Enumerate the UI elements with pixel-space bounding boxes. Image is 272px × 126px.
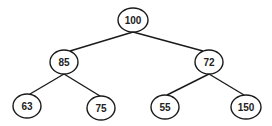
edge-100-85: [70, 32, 133, 51]
tree-node-150: 150: [231, 95, 261, 119]
node-label: 75: [95, 103, 107, 114]
tree-node-85: 85: [50, 50, 78, 74]
tree-node-55: 55: [151, 95, 179, 119]
node-label: 55: [159, 102, 171, 113]
node-label: 63: [21, 101, 33, 112]
tree-node-75: 75: [87, 96, 115, 120]
edge-72-55: [167, 74, 209, 95]
edge-72-150: [209, 74, 244, 95]
node-label: 150: [238, 102, 255, 113]
binary-tree-diagram: 100 85 72 63 75 55 150: [0, 0, 272, 126]
node-label: 85: [58, 57, 70, 68]
tree-node-63: 63: [13, 94, 41, 118]
node-label: 100: [125, 15, 142, 26]
edge-100-72: [133, 32, 203, 51]
tree-node-72: 72: [195, 50, 223, 74]
edge-85-75: [64, 74, 100, 96]
node-label: 72: [203, 57, 215, 68]
edge-85-63: [30, 74, 64, 94]
tree-node-100: 100: [118, 8, 148, 32]
